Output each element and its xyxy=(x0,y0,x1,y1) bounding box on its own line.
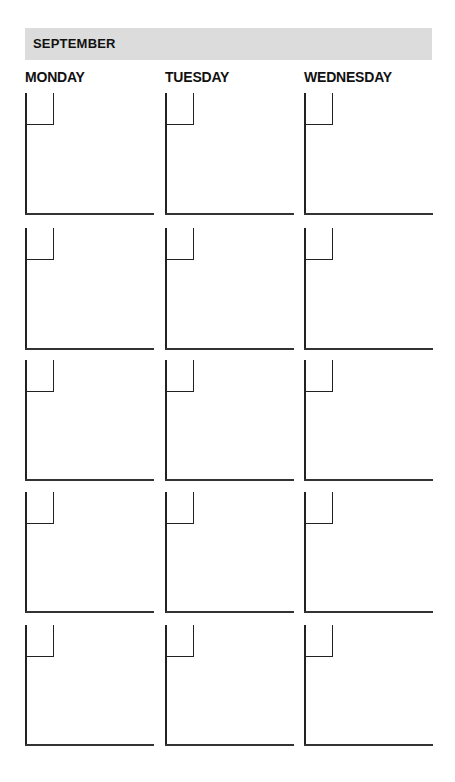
cell-bottom-border xyxy=(304,744,433,746)
date-number-box[interactable] xyxy=(304,93,333,125)
day-cell[interactable] xyxy=(165,228,294,350)
cell-bottom-border xyxy=(25,348,154,350)
cell-bottom-border xyxy=(25,213,154,215)
day-cell[interactable] xyxy=(25,360,154,481)
date-number-box[interactable] xyxy=(25,360,54,392)
date-number-box[interactable] xyxy=(25,625,54,657)
day-cell[interactable] xyxy=(25,228,154,350)
date-number-box[interactable] xyxy=(165,492,194,524)
month-title: SEPTEMBER xyxy=(33,36,116,51)
date-number-box[interactable] xyxy=(304,492,333,524)
date-number-box[interactable] xyxy=(165,360,194,392)
date-number-box[interactable] xyxy=(25,492,54,524)
cell-bottom-border xyxy=(165,213,294,215)
cell-bottom-border xyxy=(304,348,433,350)
cell-bottom-border xyxy=(165,348,294,350)
day-cell[interactable] xyxy=(25,93,154,215)
cell-bottom-border xyxy=(25,611,154,613)
day-cell[interactable] xyxy=(304,360,433,481)
cell-bottom-border xyxy=(304,213,433,215)
date-number-box[interactable] xyxy=(165,93,194,125)
date-number-box[interactable] xyxy=(165,228,194,260)
day-header-wednesday: WEDNESDAY xyxy=(304,69,392,85)
day-cell[interactable] xyxy=(304,492,433,613)
day-cell[interactable] xyxy=(165,625,294,746)
cell-bottom-border xyxy=(304,479,433,481)
cell-bottom-border xyxy=(25,744,154,746)
date-number-box[interactable] xyxy=(25,93,54,125)
day-cell[interactable] xyxy=(25,492,154,613)
day-cell[interactable] xyxy=(165,93,294,215)
date-number-box[interactable] xyxy=(304,228,333,260)
date-number-box[interactable] xyxy=(25,228,54,260)
day-cell[interactable] xyxy=(304,625,433,746)
day-cell[interactable] xyxy=(165,492,294,613)
cell-bottom-border xyxy=(165,611,294,613)
date-number-box[interactable] xyxy=(304,360,333,392)
day-cell[interactable] xyxy=(304,228,433,350)
day-header-monday: MONDAY xyxy=(25,69,85,85)
month-header-bar: SEPTEMBER xyxy=(25,28,432,60)
date-number-box[interactable] xyxy=(304,625,333,657)
cell-bottom-border xyxy=(304,611,433,613)
cell-bottom-border xyxy=(25,479,154,481)
date-number-box[interactable] xyxy=(165,625,194,657)
day-cell[interactable] xyxy=(25,625,154,746)
day-cell[interactable] xyxy=(304,93,433,215)
day-header-tuesday: TUESDAY xyxy=(165,69,229,85)
cell-bottom-border xyxy=(165,744,294,746)
day-cell[interactable] xyxy=(165,360,294,481)
cell-bottom-border xyxy=(165,479,294,481)
